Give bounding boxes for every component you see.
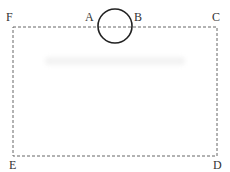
- label-point-d: D: [213, 158, 222, 172]
- circle: [98, 9, 132, 43]
- label-point-c: C: [212, 10, 220, 24]
- label-point-e: E: [9, 158, 16, 172]
- dashed-rectangle: [13, 27, 217, 156]
- label-point-f: F: [6, 10, 13, 24]
- label-point-a: A: [85, 10, 94, 24]
- label-point-b: B: [134, 10, 142, 24]
- geometry-diagram: F A B C E D: [0, 0, 230, 172]
